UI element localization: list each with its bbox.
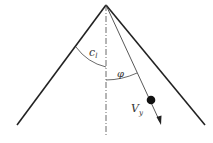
velocity-label: Vy	[131, 102, 144, 117]
cone-right-edge	[106, 5, 205, 125]
particle-dot	[147, 96, 156, 105]
ray-angle-label: φ	[117, 68, 124, 79]
cone-diagram: cl φ Vy	[0, 0, 213, 143]
cone-left-edge	[17, 5, 106, 125]
arrowhead-icon	[157, 116, 162, 126]
cone-angle-label: cl	[89, 46, 97, 60]
